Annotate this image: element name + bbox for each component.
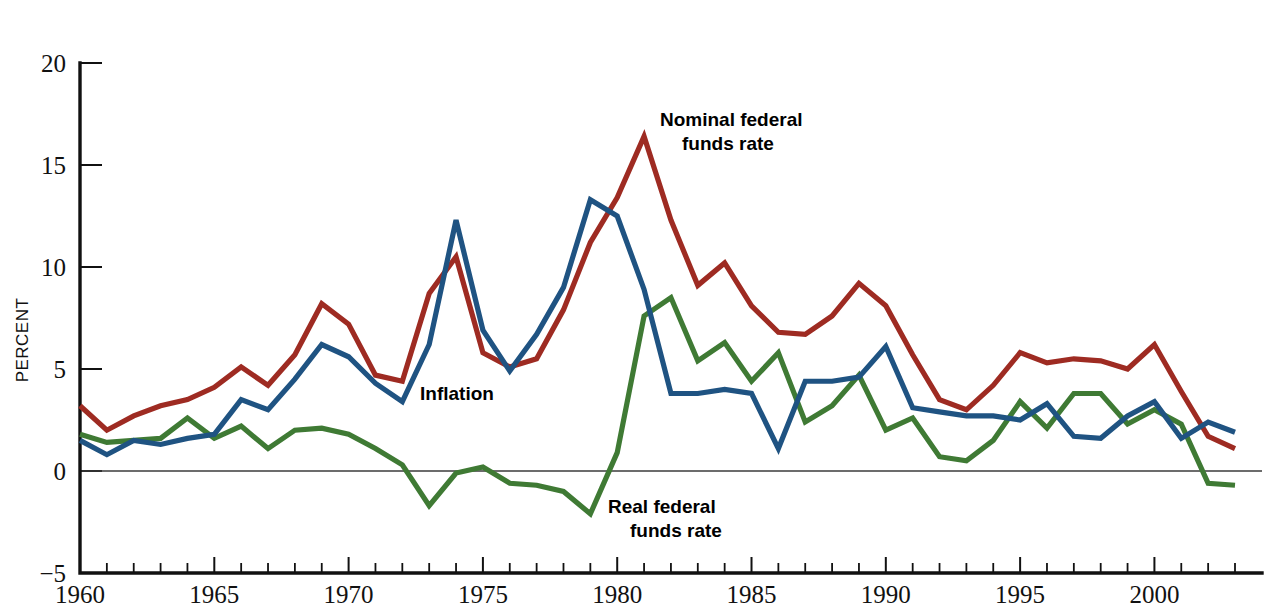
x-tick-label-1960: 1960 xyxy=(55,581,105,608)
x-tick-label-2000: 2000 xyxy=(1129,581,1179,608)
inflation-label: Inflation xyxy=(420,383,494,404)
x-tick-label-1980: 1980 xyxy=(592,581,642,608)
y-tick-label-15: 15 xyxy=(41,152,66,179)
data-series-group xyxy=(80,136,1235,513)
y-tick-label-20: 20 xyxy=(41,50,66,77)
x-tick-label-1990: 1990 xyxy=(861,581,911,608)
x-tick-label-1995: 1995 xyxy=(995,581,1045,608)
y-axis-tick-labels: −505101520 xyxy=(39,50,66,587)
federal-funds-rate-line-chart: PERCENT −505101520 196019651970197519801… xyxy=(0,0,1264,611)
y-tick-label-0: 0 xyxy=(54,458,67,485)
y-tick-label-5: 5 xyxy=(54,356,67,383)
real-federal-funds-rate-label: Real federalfunds rate xyxy=(608,496,722,541)
x-tick-label-1985: 1985 xyxy=(727,581,777,608)
x-tick-label-1970: 1970 xyxy=(324,581,374,608)
y-axis-title: PERCENT xyxy=(13,298,32,383)
x-tick-label-1975: 1975 xyxy=(458,581,508,608)
y-tick-label-10: 10 xyxy=(41,254,66,281)
chart-page: PERCENT −505101520 196019651970197519801… xyxy=(0,0,1264,611)
nominal-federal-funds-rate-label: Nominal federalfunds rate xyxy=(660,109,803,154)
x-tick-label-1965: 1965 xyxy=(189,581,239,608)
x-axis-tick-labels: 196019651970197519801985199019952000 xyxy=(55,581,1179,608)
series-line-inflation xyxy=(80,200,1235,455)
